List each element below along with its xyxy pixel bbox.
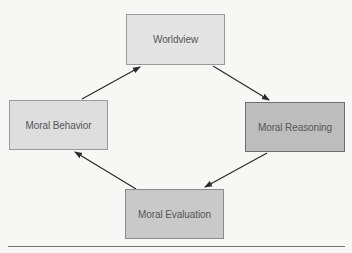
arrow-moral-reasoning-to-moral-evaluation [205,153,267,187]
arrow-worldview-to-moral-reasoning [213,66,269,100]
node-worldview: Worldview [126,14,225,65]
node-moral-evaluation: Moral Evaluation [125,189,224,239]
node-moral-reasoning: Moral Reasoning [245,102,345,152]
bottom-rule-divider [8,246,345,247]
node-worldview-label: Worldview [153,34,198,45]
node-moral-behavior: Moral Behavior [9,100,108,150]
node-moral-evaluation-label: Moral Evaluation [138,209,211,220]
node-moral-reasoning-label: Moral Reasoning [258,122,332,133]
arrow-moral-evaluation-to-moral-behavior [75,152,136,189]
arrow-moral-behavior-to-worldview [82,67,140,99]
node-moral-behavior-label: Moral Behavior [26,120,92,131]
